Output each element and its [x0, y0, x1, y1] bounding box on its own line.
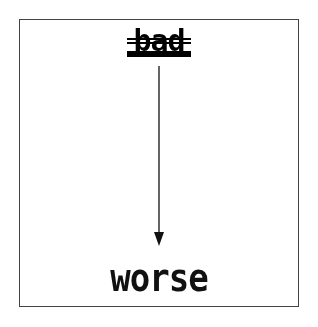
arrow-head	[154, 232, 164, 246]
target-word-label: worse	[0, 255, 318, 299]
